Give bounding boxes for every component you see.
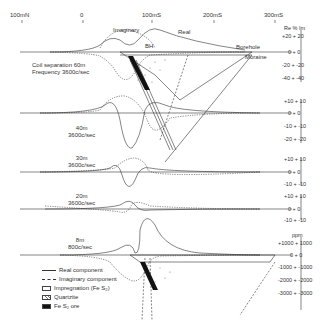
scale-tick: -2000 + -2000 (278, 277, 312, 283)
scale-header-ppm: ppm (292, 232, 303, 238)
annotation-bh: BH (145, 43, 153, 50)
legend-item-real: Real component (42, 266, 103, 274)
scale-tick: -10 + -10 (284, 123, 306, 129)
scale-tick: -20 + -20 (282, 62, 304, 68)
scale-tick: +1000 + 1000 (278, 240, 312, 246)
axis-label-300mS: 300mS (264, 12, 283, 19)
scale-tick: 0 + 0 (288, 206, 300, 212)
axis-label-100mS: 100mS (142, 12, 161, 19)
scale-tick: +10 + 10 (284, 193, 306, 199)
fes2-ore-body-bottom (140, 262, 158, 290)
annotation-real: Real (178, 29, 190, 36)
profile-label-40m: 40m 3600c/sec (68, 125, 95, 139)
black-box-icon (42, 304, 51, 309)
profile-label-8m: 8m 800c/sec (68, 237, 92, 251)
dotted-line-icon (42, 279, 56, 280)
legend-item-imaginary: Imaginary component (42, 275, 117, 283)
scale-tick: 0 + 0 (288, 49, 300, 55)
annotation-borehole: Borehole (236, 44, 260, 51)
scale-header-re-im: Re % Im (284, 25, 305, 31)
axis-label-0: 0 (80, 12, 83, 19)
fes2-ore-body-top (128, 56, 150, 90)
scale-tick: 0 + 0 (290, 252, 302, 258)
scale-tick: -10 + -10 (284, 181, 306, 187)
scale-tick: +10 + 10 (284, 98, 306, 104)
profile-label-20m: 20m 3600c/sec (68, 193, 95, 207)
dots-box-icon (42, 286, 51, 291)
scale-tick: 0 + 0 (288, 110, 300, 116)
scale-tick: 0 + 0 (288, 169, 300, 175)
scale-tick: -20 + -20 (284, 136, 306, 142)
v-pattern-box-icon (42, 295, 51, 300)
scale-tick: -3000 + -3000 (278, 290, 312, 296)
solid-line-icon (42, 270, 56, 271)
profile-label-60m: Coil separation 60m Frequency 3600c/sec (32, 62, 89, 76)
scale-tick: -40 + -40 (282, 75, 304, 81)
annotation-imaginary: Imaginary (113, 27, 139, 34)
scale-tick: -10 + -10 (284, 217, 306, 223)
annotation-moraine: Moraine (245, 54, 267, 61)
legend-item-ore: Fe S₂ ore (42, 302, 79, 310)
profile-label-30m: 30m 3600c/sec (68, 155, 95, 169)
scale-tick: +20 + 20 (282, 33, 304, 39)
legend-item-quartzite: Quartzite (42, 293, 78, 301)
axis-label-100mN: 100mN (10, 12, 29, 19)
legend-item-impregnation: Impregnation (Fe S₂) (42, 284, 110, 292)
scale-tick: -1000 + -1000 (278, 264, 312, 270)
axis-label-200mS: 200mS (203, 12, 222, 19)
scale-tick: +10 + 10 (284, 156, 306, 162)
